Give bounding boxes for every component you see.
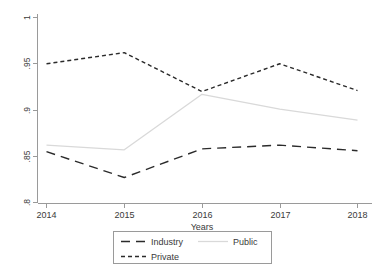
chart-container: 1 .95 .9 .85 .8 2014 2015 2016 2017 2018…	[0, 0, 382, 272]
x-tick-label-2016: 2016	[192, 210, 212, 220]
y-axis-tick-labels: 1 .95 .9 .85 .8	[22, 15, 32, 206]
x-tick-label-2018: 2018	[347, 210, 367, 220]
series-group	[47, 53, 358, 178]
y-tick-label-95: .95	[22, 57, 32, 69]
y-tick-label-9: .9	[22, 107, 32, 114]
legend-label-industry: Industry	[151, 237, 184, 247]
legend-label-private: Private	[151, 252, 179, 262]
x-tick-label-2015: 2015	[114, 210, 134, 220]
series-line-public	[47, 94, 358, 150]
y-axis-ticks	[33, 18, 38, 203]
x-axis-title: Years	[191, 222, 214, 232]
x-axis-ticks	[47, 204, 358, 209]
y-tick-label-8: .8	[22, 199, 32, 206]
y-tick-label-85: .85	[22, 150, 32, 162]
line-chart: 1 .95 .9 .85 .8 2014 2015 2016 2017 2018…	[0, 0, 382, 272]
x-tick-label-2017: 2017	[270, 210, 290, 220]
series-line-industry	[47, 145, 358, 177]
chart-legend: Industry Public Private	[114, 232, 272, 264]
x-tick-label-2014: 2014	[36, 210, 56, 220]
y-tick-label-1: 1	[22, 15, 32, 20]
legend-label-public: Public	[233, 237, 258, 247]
series-line-private	[47, 53, 358, 92]
x-axis-tick-labels: 2014 2015 2016 2017 2018	[36, 210, 367, 220]
